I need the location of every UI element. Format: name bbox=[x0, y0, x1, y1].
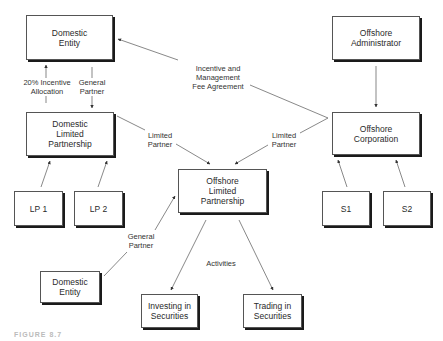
lp1-node: LP 1 bbox=[14, 191, 63, 226]
limited-partner-right-label: Limited Partner bbox=[268, 131, 300, 149]
trading-in-securities-node: Trading in Securities bbox=[243, 294, 302, 328]
lp2-node: LP 2 bbox=[74, 191, 123, 226]
offshore-administrator-node: Offshore Administrator bbox=[332, 16, 420, 60]
s2-node: S2 bbox=[383, 191, 431, 226]
domestic-entity-bottom-node: Domestic Entity bbox=[40, 271, 100, 303]
domestic-entity-top-node: Domestic Entity bbox=[26, 15, 113, 60]
s1-node: S1 bbox=[322, 191, 370, 226]
investing-in-securities-node: Investing in Securities bbox=[141, 294, 198, 328]
general-partner-top-label: General Partner bbox=[76, 78, 108, 96]
offshore-corporation-node: Offshore Corporation bbox=[332, 112, 420, 155]
offshore-limited-partnership-node: Offshore Limited Partnership bbox=[178, 169, 267, 213]
domestic-limited-partnership-node: Domestic Limited Partnership bbox=[26, 112, 114, 156]
limited-partner-left-label: Limited Partner bbox=[144, 131, 176, 149]
general-partner-bottom-label: General Partner bbox=[125, 232, 157, 250]
incentive-fee-agreement-label: Incentive and Management Fee Agreement bbox=[190, 64, 246, 91]
figure-caption: FIGURE 8.7 bbox=[14, 331, 62, 338]
incentive-allocation-label: 20% Incentive Allocation bbox=[20, 78, 74, 96]
activities-label: Activities bbox=[202, 259, 240, 268]
